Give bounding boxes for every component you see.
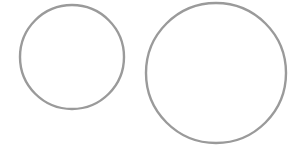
circle-small [20, 5, 124, 109]
diagram-canvas [0, 0, 293, 145]
circle-large [146, 3, 286, 143]
